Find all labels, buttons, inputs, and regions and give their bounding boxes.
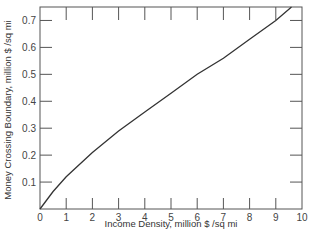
- x-tick-label: 2: [90, 212, 96, 223]
- x-tick-label: 9: [273, 212, 279, 223]
- x-tick-label: 0: [37, 212, 43, 223]
- y-tick-label: 0.5: [22, 69, 36, 80]
- right-axis-ticks: [290, 20, 302, 182]
- y-axis-ticks: 0.10.20.30.40.50.60.7: [22, 15, 52, 188]
- y-tick-label: 0.3: [22, 123, 36, 134]
- top-axis-ticks: [66, 7, 276, 20]
- y-tick-label: 0.1: [22, 177, 36, 188]
- plot-frame: [40, 7, 302, 209]
- x-axis-label: Income Density, million $ /sq mi: [105, 218, 238, 229]
- y-tick-label: 0.4: [22, 96, 36, 107]
- y-axis-label: Money Crossing Boundary, million $ /sq m…: [2, 20, 13, 199]
- y-tick-label: 0.6: [22, 42, 36, 53]
- x-tick-label: 10: [296, 212, 308, 223]
- x-tick-label: 1: [63, 212, 69, 223]
- line-chart: 012345678910 0.10.20.30.40.50.60.7 Incom…: [0, 0, 311, 233]
- y-tick-label: 0.2: [22, 150, 36, 161]
- data-line: [40, 7, 292, 209]
- y-tick-label: 0.7: [22, 15, 36, 26]
- x-tick-label: 8: [247, 212, 253, 223]
